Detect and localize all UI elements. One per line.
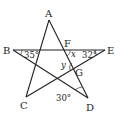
label-B: B	[3, 45, 10, 56]
angle-arc-B	[21, 50, 22, 55]
label-D: D	[86, 102, 94, 113]
label-G: G	[75, 67, 83, 78]
angle-arc-D	[75, 87, 82, 90]
angle-label-D: 30°	[56, 93, 71, 103]
angle-label-B: 35°	[24, 50, 39, 60]
angle-label-x: x	[71, 49, 76, 59]
label-C: C	[20, 100, 28, 111]
angle-label-E: 32°	[82, 50, 97, 60]
label-F: F	[64, 38, 71, 49]
label-E: E	[107, 45, 114, 56]
angle-label-y: y	[60, 60, 66, 70]
pentagram-diagram: A B C D E F G 35° 32° x y 30°	[0, 0, 120, 117]
label-A: A	[44, 8, 53, 19]
angle-arc-x	[67, 50, 70, 56]
